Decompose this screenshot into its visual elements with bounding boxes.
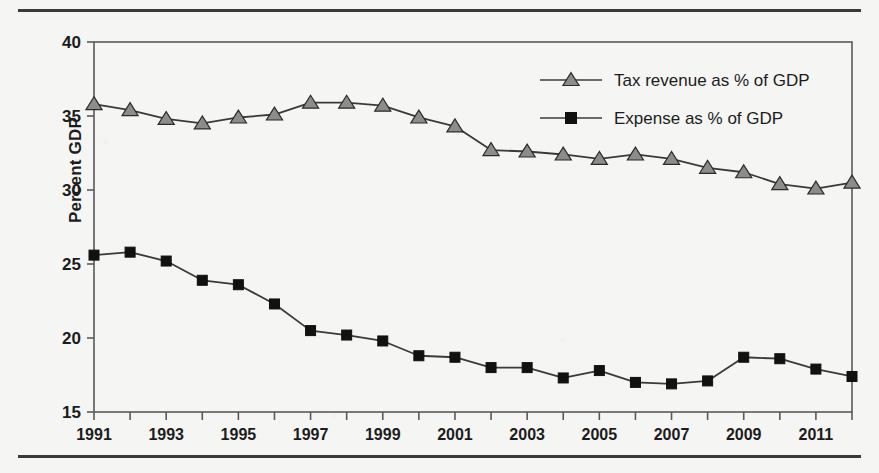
data-point-marker [703,376,713,386]
x-tick-label: 2007 [654,426,690,443]
data-point-marker [522,363,532,373]
data-point-marker [89,250,99,260]
data-point-marker [627,147,643,160]
series-layer [86,95,860,389]
data-point-marker [197,275,207,285]
data-point-marker [775,354,785,364]
data-point-marker [342,330,352,340]
y-axis-ticks: 152025303540 [62,33,94,422]
legend-label: Tax revenue as % of GDP [614,71,810,90]
x-tick-label: 2005 [582,426,618,443]
y-tick-label: 40 [62,33,81,52]
x-tick-label: 2003 [509,426,545,443]
y-tick-label: 30 [62,181,81,200]
line-chart: 152025303540 199119931995199719992001200… [0,0,879,473]
figure-container: Percent GDP 152025303540 199119931995199… [0,0,879,473]
data-point-marker [486,363,496,373]
x-tick-label: 2011 [799,426,834,443]
data-point-marker [483,143,499,156]
data-point-marker [739,352,749,362]
x-tick-label: 2001 [437,426,473,443]
legend-item[interactable]: Expense as % of GDP [540,109,783,128]
square-marker [566,113,577,124]
data-point-marker [306,326,316,336]
data-point-marker [86,97,102,110]
data-point-marker [125,247,135,257]
x-tick-label: 1999 [365,426,401,443]
data-point-marker [233,280,243,290]
data-point-marker [630,377,640,387]
data-point-marker [847,371,857,381]
y-tick-label: 15 [62,403,81,422]
data-point-marker [414,351,424,361]
data-point-marker [161,256,171,266]
x-tick-label: 1997 [293,426,329,443]
data-point-marker [378,336,388,346]
y-tick-label: 25 [62,255,81,274]
data-point-marker [667,379,677,389]
data-series [89,247,857,389]
chart-legend: Tax revenue as % of GDPExpense as % of G… [540,71,810,128]
data-point-marker [558,373,568,383]
data-point-marker [811,364,821,374]
data-point-marker [844,175,860,188]
data-point-marker [303,95,319,108]
plot-area: 152025303540 199119931995199719992001200… [0,0,879,473]
data-point-marker [450,352,460,362]
legend-item[interactable]: Tax revenue as % of GDP [540,71,810,90]
y-tick-label: 20 [62,329,81,348]
series-line [94,252,852,384]
x-tick-label: 1991 [76,426,112,443]
x-tick-label: 1993 [148,426,184,443]
data-point-marker [594,366,604,376]
data-point-marker [269,299,279,309]
legend-label: Expense as % of GDP [614,109,783,128]
data-point-marker [339,95,355,108]
x-axis-ticks: 1991199319951997199920012003200520072009… [76,412,852,443]
x-tick-label: 2009 [726,426,762,443]
triangle-marker [563,73,579,86]
x-tick-label: 1995 [221,426,257,443]
y-tick-label: 35 [62,107,81,126]
